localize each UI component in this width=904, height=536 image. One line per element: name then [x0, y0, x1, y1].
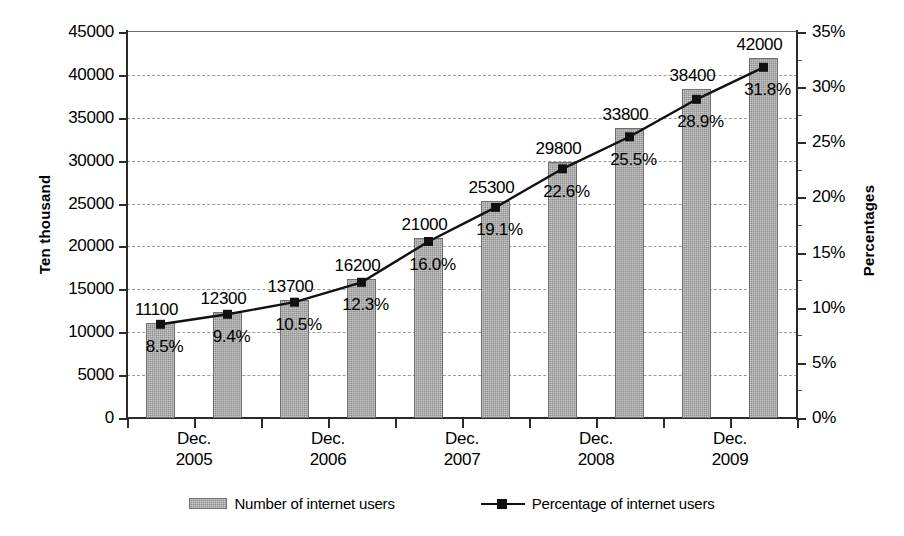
percentage-value-label: 28.9%	[666, 113, 736, 130]
y-axis-right-tick	[797, 197, 806, 199]
y-axis-right-tick-label: 35%	[812, 23, 845, 40]
x-axis-label-year: 2007	[407, 449, 517, 470]
legend-label-line: Percentage of internet users	[532, 495, 715, 512]
y-axis-right-tick	[797, 32, 806, 34]
plot-top-border	[126, 31, 798, 32]
legend-label-bars: Number of internet users	[234, 495, 394, 512]
x-axis-tick	[730, 419, 732, 428]
y-axis-left-tick-label: 25000	[68, 195, 114, 212]
y-axis-right-tick-label: 20%	[812, 188, 845, 205]
x-axis-label-year: 2005	[139, 449, 249, 470]
x-axis-label-year: 2008	[541, 449, 651, 470]
y-axis-right-tick-label: 5%	[812, 354, 836, 371]
x-axis-tick	[261, 419, 263, 428]
x-axis-label: Dec.2008	[541, 428, 651, 470]
x-axis-label: Dec.2006	[273, 428, 383, 470]
percentage-value-label: 19.1%	[465, 221, 535, 238]
x-axis-tick	[529, 419, 531, 428]
x-axis-label: Dec.2007	[407, 428, 517, 470]
y-axis-right-tick	[797, 363, 806, 365]
x-axis-tick	[462, 419, 464, 428]
bar-value-label: 38400	[653, 67, 733, 84]
percentage-value-label: 16.0%	[398, 256, 468, 273]
y-axis-left-tick-label: 0	[105, 409, 114, 426]
x-axis-tick	[663, 419, 665, 428]
bar-value-label: 25300	[452, 179, 532, 196]
percentage-value-label: 22.6%	[532, 183, 602, 200]
y-axis-left-line	[126, 30, 128, 420]
y-axis-right-title: Percentages	[860, 171, 877, 291]
y-axis-right-tick	[797, 253, 806, 255]
x-axis-tick	[395, 419, 397, 428]
y-axis-right-tick	[797, 308, 806, 310]
y-axis-left-tick-label: 40000	[68, 66, 114, 83]
x-axis-label-month: Dec.	[273, 428, 383, 449]
x-axis-label-month: Dec.	[675, 428, 785, 449]
x-axis-tick	[328, 419, 330, 428]
bar-value-label: 33800	[586, 106, 666, 123]
x-axis-label: Dec.2009	[675, 428, 785, 470]
x-axis-label-month: Dec.	[407, 428, 517, 449]
x-axis-label-month: Dec.	[541, 428, 651, 449]
x-axis-label-year: 2006	[273, 449, 383, 470]
x-axis-tick	[596, 419, 598, 428]
percentage-value-label: 31.8%	[733, 81, 803, 98]
percentage-value-label: 8.5%	[130, 338, 200, 355]
bar-value-label: 21000	[385, 216, 465, 233]
bar-value-label: 13700	[251, 278, 331, 295]
legend-line-marker-icon	[481, 498, 525, 510]
y-axis-right-tick-label: 15%	[812, 244, 845, 261]
x-axis-tick	[194, 419, 196, 428]
x-axis-label: Dec.2005	[139, 428, 249, 470]
y-axis-left-tick-label: 45000	[68, 23, 114, 40]
bar	[615, 128, 644, 418]
x-axis-label-year: 2009	[675, 449, 785, 470]
bar	[682, 89, 711, 418]
y-axis-left-title: Ten thousand	[36, 165, 53, 285]
legend-item-bars: Number of internet users	[189, 495, 394, 512]
legend-item-line: Percentage of internet users	[481, 495, 715, 512]
y-axis-left-tick-label: 30000	[68, 152, 114, 169]
y-axis-right-tick-label: 10%	[812, 299, 845, 316]
bar-value-label: 29800	[519, 140, 599, 157]
x-axis-tick	[797, 419, 799, 428]
y-axis-left-tick-label: 20000	[68, 237, 114, 254]
percentage-value-label: 10.5%	[264, 316, 334, 333]
bar	[749, 58, 778, 418]
chart-legend: Number of internet users Percentage of i…	[0, 495, 904, 512]
y-axis-left-tick-label: 15000	[68, 280, 114, 297]
y-axis-left-tick-label: 10000	[68, 323, 114, 340]
y-axis-right-tick	[797, 142, 806, 144]
percentage-value-label: 25.5%	[599, 151, 669, 168]
y-axis-right-tick-label: 0%	[812, 409, 836, 426]
percentage-value-label: 9.4%	[197, 328, 267, 345]
y-axis-right-tick-label: 30%	[812, 78, 845, 95]
x-axis-tick	[127, 419, 129, 428]
y-axis-left-tick-label: 5000	[77, 366, 114, 383]
bar-value-label: 16200	[318, 257, 398, 274]
x-axis-label-month: Dec.	[139, 428, 249, 449]
chart-container: 0500010000150002000025000300003500040000…	[0, 0, 904, 536]
legend-bar-swatch-icon	[189, 498, 227, 509]
y-axis-right-tick-label: 25%	[812, 133, 845, 150]
bar-value-label: 42000	[720, 36, 800, 53]
percentage-value-label: 12.3%	[331, 296, 401, 313]
y-axis-left-tick-label: 35000	[68, 109, 114, 126]
